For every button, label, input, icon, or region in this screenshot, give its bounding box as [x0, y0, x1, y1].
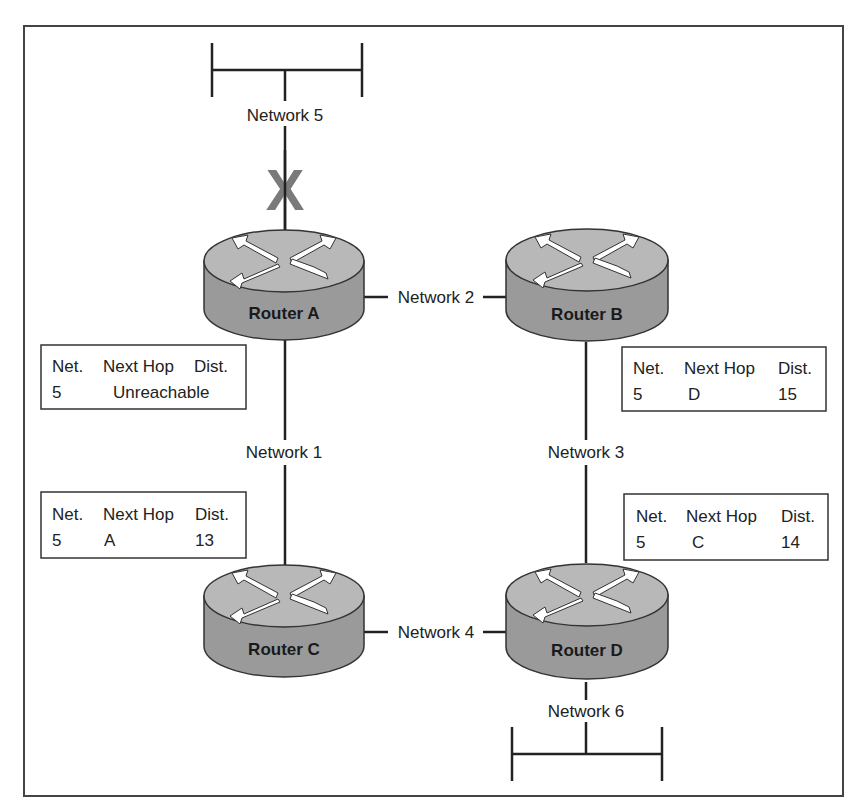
svg-text:Unreachable: Unreachable: [113, 383, 209, 402]
svg-text:Next Hop: Next Hop: [684, 359, 755, 378]
router-c-label: Router C: [248, 640, 320, 659]
svg-text:5: 5: [636, 533, 645, 552]
routing-table-d: Net. Next Hop Dist. 5 C 14: [624, 494, 828, 560]
network-5-label: Network 5: [247, 106, 324, 125]
router-d[interactable]: Router D: [506, 564, 668, 679]
routing-table-c: Net. Next Hop Dist. 5 A 13: [41, 492, 246, 558]
network-1-label: Network 1: [246, 443, 323, 462]
network-3-label: Network 3: [548, 443, 625, 462]
svg-text:D: D: [688, 385, 700, 404]
svg-text:Next Hop: Next Hop: [103, 357, 174, 376]
network-4-label: Network 4: [398, 623, 475, 642]
svg-text:Dist.: Dist.: [194, 357, 228, 376]
router-a-label: Router A: [248, 304, 319, 323]
svg-text:Net.: Net.: [52, 357, 83, 376]
svg-text:Dist.: Dist.: [778, 359, 812, 378]
router-b[interactable]: Router B: [506, 229, 668, 341]
network-diagram: Network 5 X Network 2 Network 1 Network …: [0, 0, 866, 812]
svg-text:A: A: [104, 531, 116, 550]
svg-text:5: 5: [52, 531, 61, 550]
svg-text:Next Hop: Next Hop: [103, 505, 174, 524]
routing-table-a: Net. Next Hop Dist. 5 Unreachable: [41, 345, 246, 409]
router-a[interactable]: Router A: [204, 230, 364, 340]
svg-text:Net.: Net.: [636, 507, 667, 526]
svg-text:15: 15: [778, 385, 797, 404]
router-c[interactable]: Router C: [204, 565, 364, 677]
routing-table-b: Net. Next Hop Dist. 5 D 15: [622, 347, 826, 411]
svg-text:Net.: Net.: [633, 359, 664, 378]
svg-text:13: 13: [195, 531, 214, 550]
svg-text:Next Hop: Next Hop: [686, 507, 757, 526]
network-6-label: Network 6: [548, 702, 625, 721]
router-d-label: Router D: [551, 641, 623, 660]
svg-text:5: 5: [633, 385, 642, 404]
svg-text:Dist.: Dist.: [195, 505, 229, 524]
svg-text:Net.: Net.: [52, 505, 83, 524]
svg-text:14: 14: [781, 533, 800, 552]
svg-text:C: C: [692, 533, 704, 552]
svg-text:5: 5: [52, 383, 61, 402]
router-b-label: Router B: [551, 305, 623, 324]
svg-text:Dist.: Dist.: [781, 507, 815, 526]
network-2-label: Network 2: [398, 288, 475, 307]
